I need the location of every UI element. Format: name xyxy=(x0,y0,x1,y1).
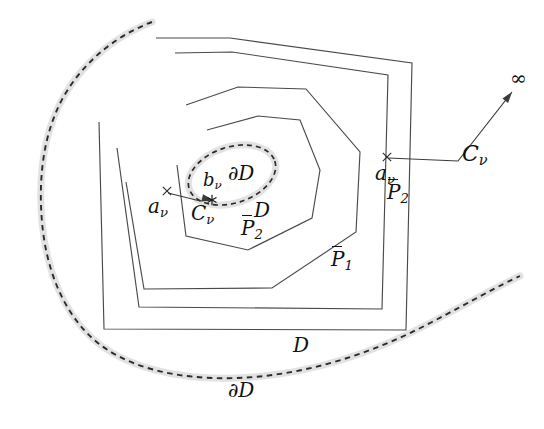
cross-a-nu-left xyxy=(163,187,171,195)
figure-canvas: aν aν bν Cν Cν D D ∂D ∂D P2 P2 P1 ∞ xyxy=(0,0,544,429)
label-d-bottom: D xyxy=(293,335,309,355)
outer-boundary-dashed-curve xyxy=(41,22,520,378)
label-a-nu-left: aν xyxy=(148,196,168,219)
label-p2-bar-inner: P2 xyxy=(241,218,263,241)
diagram-svg xyxy=(0,0,544,429)
label-c-nu-outer: Cν xyxy=(462,143,488,168)
label-del-d-ellipse: ∂D xyxy=(228,163,254,183)
label-infinity: ∞ xyxy=(510,68,527,88)
cross-a-nu-right xyxy=(383,153,391,161)
outer-boundary-halo xyxy=(41,22,520,378)
connector-a-to-infinity xyxy=(388,92,512,161)
label-c-nu-inner: Cν xyxy=(191,203,214,226)
label-d-center: D xyxy=(254,200,270,220)
label-p2-bar-outer: P2 xyxy=(387,182,409,205)
connector-line-outer xyxy=(388,92,512,161)
arrowhead-infinity xyxy=(502,92,512,103)
polygon-p2-bar-outer xyxy=(126,87,360,289)
polygon-outermost xyxy=(99,38,412,330)
label-p1-bar: P1 xyxy=(331,249,353,272)
label-del-d-bottom: ∂D xyxy=(228,380,254,400)
label-b-nu: bν xyxy=(203,171,222,192)
